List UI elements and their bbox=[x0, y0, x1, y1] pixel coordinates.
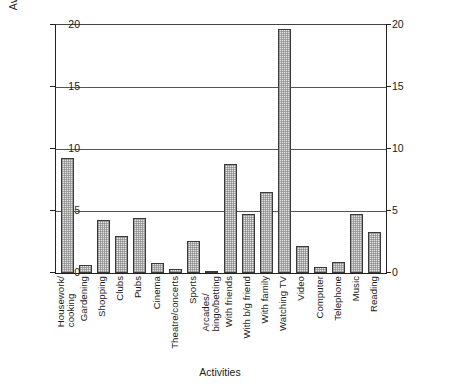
y-tick-label-left-15: 15 bbox=[54, 81, 80, 91]
x-axis-label-1: Gardening bbox=[79, 276, 89, 321]
x-axis-label-11-line-0: With family bbox=[259, 276, 270, 323]
x-axis-label-15: Telephone bbox=[332, 276, 342, 321]
bar-3 bbox=[115, 236, 128, 273]
y-tick-mark-right-20 bbox=[386, 24, 391, 25]
x-axis-label-4: Pubs bbox=[133, 276, 143, 298]
y-tick-label-left-10: 10 bbox=[54, 143, 80, 153]
x-axis-label-0: Housework/cooking bbox=[56, 276, 77, 327]
bar-15 bbox=[332, 262, 345, 273]
y-tick-mark-left-10 bbox=[50, 148, 55, 149]
x-axis-label-5-line-0: Cinema bbox=[150, 276, 161, 309]
bars-group bbox=[56, 25, 386, 273]
x-label-slot-7: Sports bbox=[186, 274, 199, 360]
x-axis-label-8-line-1: bingo/betting bbox=[211, 276, 221, 332]
x-axis-label-7-line-0: Sports bbox=[187, 276, 198, 304]
y-tick-mark-left-0 bbox=[50, 272, 55, 273]
x-label-slot-8: Arcades/bingo/betting bbox=[204, 274, 217, 360]
x-label-slot-1: Gardening bbox=[78, 274, 91, 360]
x-axis-label-10-line-0: With b/g friend bbox=[241, 276, 252, 339]
x-label-slot-3: Clubs bbox=[114, 274, 127, 360]
x-axis-label-13: Video bbox=[296, 276, 306, 301]
x-label-slot-11: With family bbox=[259, 274, 272, 360]
x-axis-label-14-line-0: Computer bbox=[313, 276, 324, 319]
x-label-slot-17: Reading bbox=[367, 274, 380, 360]
bar-5 bbox=[151, 263, 164, 273]
bar-12 bbox=[278, 29, 291, 273]
x-axis-label-8-line-0: Arcades/ bbox=[200, 293, 211, 331]
x-label-slot-4: Pubs bbox=[132, 274, 145, 360]
bar-11 bbox=[260, 192, 273, 273]
x-label-slot-2: Shopping bbox=[96, 274, 109, 360]
bar-chart-figure: Average time in hours per week Housework… bbox=[0, 0, 472, 390]
bar-14 bbox=[314, 267, 327, 273]
y-axis-title: Average time in hours per week bbox=[6, 0, 20, 50]
x-label-slot-6: Theatre/concerts bbox=[168, 274, 181, 360]
x-axis-label-0-line-0: Housework/ bbox=[55, 276, 66, 327]
x-axis-label-4-line-0: Pubs bbox=[132, 276, 143, 298]
x-axis-label-12: Watching TV bbox=[278, 276, 288, 331]
x-label-slot-10: With b/g friend bbox=[241, 274, 254, 360]
x-axis-title: Activities bbox=[55, 366, 385, 378]
x-axis-label-0-line-1: cooking bbox=[66, 276, 76, 327]
bar-1 bbox=[79, 265, 92, 273]
x-axis-label-11: With family bbox=[260, 276, 270, 323]
x-label-slot-16: Music bbox=[349, 274, 362, 360]
y-tick-mark-right-0 bbox=[386, 272, 391, 273]
x-axis-label-15-line-0: Telephone bbox=[331, 276, 342, 321]
x-axis-label-9-line-0: With friends bbox=[223, 276, 234, 327]
x-label-slot-9: With friends bbox=[223, 274, 236, 360]
x-axis-label-13-line-0: Video bbox=[295, 276, 306, 301]
x-axis-label-9: With friends bbox=[224, 276, 234, 327]
y-tick-mark-right-10 bbox=[386, 148, 391, 149]
x-axis-label-7: Sports bbox=[188, 276, 198, 304]
x-axis-label-6-line-0: Theatre/concerts bbox=[169, 276, 180, 349]
y-tick-mark-left-20 bbox=[50, 24, 55, 25]
x-label-slot-15: Telephone bbox=[331, 274, 344, 360]
y-tick-label-right-20: 20 bbox=[392, 19, 418, 29]
bar-6 bbox=[169, 269, 182, 273]
y-tick-label-left-0: 0 bbox=[54, 267, 80, 277]
x-label-slot-0: Housework/cooking bbox=[60, 274, 73, 360]
bar-7 bbox=[187, 241, 200, 273]
x-axis-category-labels: Housework/cookingGardeningShoppingClubsP… bbox=[55, 274, 385, 360]
y-tick-mark-left-5 bbox=[50, 210, 55, 211]
y-tick-mark-left-15 bbox=[50, 86, 55, 87]
y-tick-label-right-15: 15 bbox=[392, 81, 418, 91]
x-axis-label-3: Clubs bbox=[115, 276, 125, 301]
bar-10 bbox=[242, 214, 255, 273]
x-axis-label-6: Theatre/concerts bbox=[170, 276, 180, 349]
x-axis-label-5: Cinema bbox=[151, 276, 161, 309]
x-axis-label-17-line-0: Reading bbox=[368, 276, 379, 312]
bar-17 bbox=[368, 232, 381, 273]
y-tick-label-left-20: 20 bbox=[54, 19, 80, 29]
x-axis-label-16: Music bbox=[351, 276, 361, 301]
bar-4 bbox=[133, 218, 146, 273]
x-axis-label-12-line-0: Watching TV bbox=[277, 276, 288, 331]
x-axis-label-2-line-0: Shopping bbox=[96, 276, 107, 317]
x-axis-label-14: Computer bbox=[314, 276, 324, 319]
x-label-slot-12: Watching TV bbox=[277, 274, 290, 360]
x-label-slot-5: Cinema bbox=[150, 274, 163, 360]
x-axis-label-2: Shopping bbox=[97, 276, 107, 317]
x-axis-label-1-line-0: Gardening bbox=[78, 276, 89, 321]
x-axis-label-17: Reading bbox=[369, 276, 379, 312]
y-tick-label-right-0: 0 bbox=[392, 267, 418, 277]
plot-area bbox=[55, 24, 387, 274]
bar-8 bbox=[205, 271, 218, 273]
y-tick-label-right-5: 5 bbox=[392, 205, 418, 215]
x-axis-label-3-line-0: Clubs bbox=[114, 276, 125, 301]
y-tick-label-right-10: 10 bbox=[392, 143, 418, 153]
x-axis-label-8: Arcades/bingo/betting bbox=[201, 276, 222, 332]
bar-16 bbox=[350, 214, 363, 273]
bar-0 bbox=[61, 158, 74, 273]
bar-9 bbox=[224, 164, 237, 273]
y-tick-label-left-5: 5 bbox=[54, 205, 80, 215]
x-axis-label-16-line-0: Music bbox=[350, 276, 361, 301]
bar-2 bbox=[97, 220, 110, 273]
x-label-slot-13: Video bbox=[295, 274, 308, 360]
y-tick-mark-right-5 bbox=[386, 210, 391, 211]
y-tick-mark-right-15 bbox=[386, 86, 391, 87]
bar-13 bbox=[296, 246, 309, 273]
x-label-slot-14: Computer bbox=[313, 274, 326, 360]
x-axis-label-10: With b/g friend bbox=[242, 276, 252, 339]
